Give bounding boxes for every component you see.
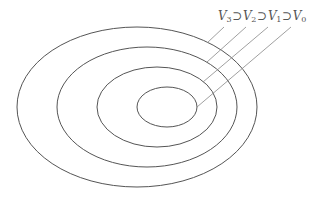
set-v1-subscript: 1 — [276, 15, 281, 24]
leader-line-v3 — [207, 27, 224, 43]
subset-chain-label: V3⊃V2⊃V1⊃V0 — [218, 9, 306, 24]
superset-symbol: ⊃ — [232, 9, 242, 23]
superset-symbol: ⊃ — [282, 9, 292, 23]
superset-symbol: ⊃ — [257, 9, 267, 23]
nested-sets-diagram — [0, 0, 319, 197]
ellipse-v0 — [137, 87, 197, 127]
set-v0-subscript: 0 — [301, 15, 306, 24]
set-v3-subscript: 3 — [226, 15, 231, 24]
ellipse-v1 — [97, 67, 217, 147]
set-v2-subscript: 2 — [251, 15, 256, 24]
ellipse-v2 — [57, 47, 237, 167]
set-v0-symbol: V — [293, 9, 301, 23]
set-v1-symbol: V — [268, 9, 276, 23]
